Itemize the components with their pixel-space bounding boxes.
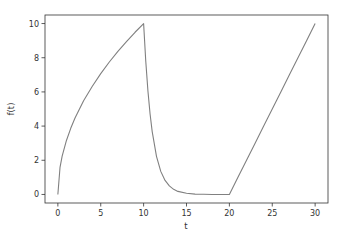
x-tick-label: 20 [224,209,234,218]
y-tick-label: 4 [34,122,39,131]
x-tick-label: 10 [139,209,149,218]
y-tick-label: 2 [34,156,39,165]
x-tick-label: 5 [98,209,103,218]
y-axis-label: f(t) [6,103,16,116]
y-tick-label: 8 [34,54,39,63]
chart-background [0,0,340,241]
x-tick-label: 0 [55,209,60,218]
y-tick-label: 10 [29,20,39,29]
x-tick-label: 30 [310,209,320,218]
x-tick-label: 15 [181,209,191,218]
y-tick-label: 6 [34,88,39,97]
y-tick-label: 0 [34,190,39,199]
x-tick-label: 25 [267,209,277,218]
line-chart: 0510152025300246810 t f(t) [0,0,340,241]
